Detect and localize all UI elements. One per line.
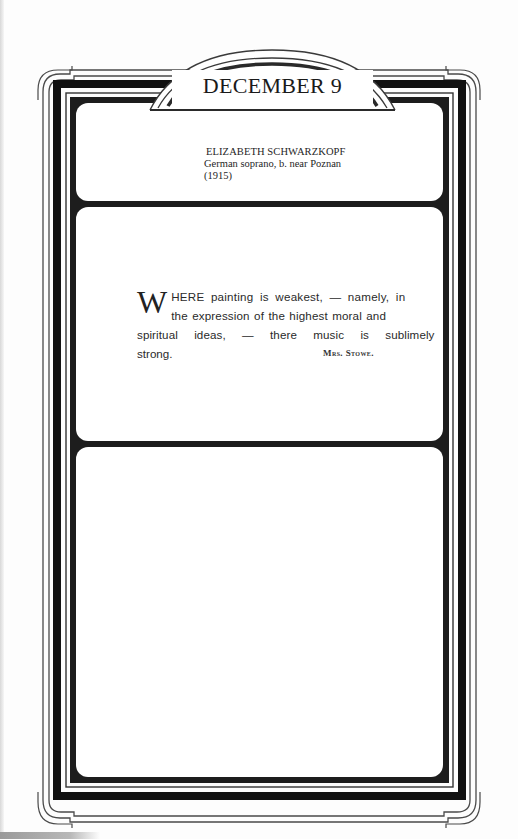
person-name: ELIZABETH SCHWARZKOPF [204,146,345,158]
calendar-page: DECEMBER 9 ELIZABETH SCHWARZKOPF German … [0,0,518,839]
birthday-entry: ELIZABETH SCHWARZKOPF German soprano, b.… [204,146,345,182]
ornamental-frame [0,0,518,839]
quote-line-2: the expression of the highest moral and [137,306,403,325]
quote-line-1: HERE painting is weakest, — namely, in [137,287,403,306]
person-description: German soprano, b. near Poznan [204,158,345,170]
quote-line-4: strong. [137,347,172,360]
quote-dropcap: W [137,288,167,316]
quote-line-4-wrapper: strong. Mrs. Stowe. [137,344,403,363]
person-birth-year: (1915) [204,170,345,182]
notes-panel [76,447,443,777]
quote-line-3: spiritual ideas, — there music is sublim… [137,325,403,344]
date-header: DECEMBER 9 [160,74,385,98]
quote-author: Mrs. Stowe. [323,344,374,363]
quotation: W HERE painting is weakest, — namely, in… [137,287,403,363]
